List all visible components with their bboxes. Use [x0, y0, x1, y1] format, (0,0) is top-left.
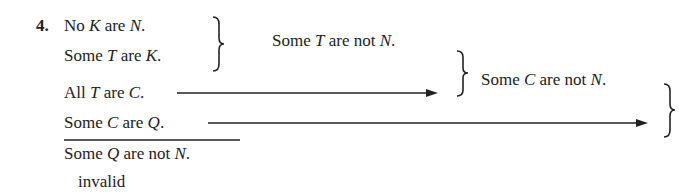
arrowhead-1-icon — [426, 89, 438, 97]
brace-1-icon — [213, 17, 224, 71]
arrowhead-2-icon — [636, 119, 648, 127]
brace-3-icon — [664, 84, 675, 137]
brace-2-icon — [457, 51, 468, 96]
diagram-lines — [0, 0, 700, 194]
